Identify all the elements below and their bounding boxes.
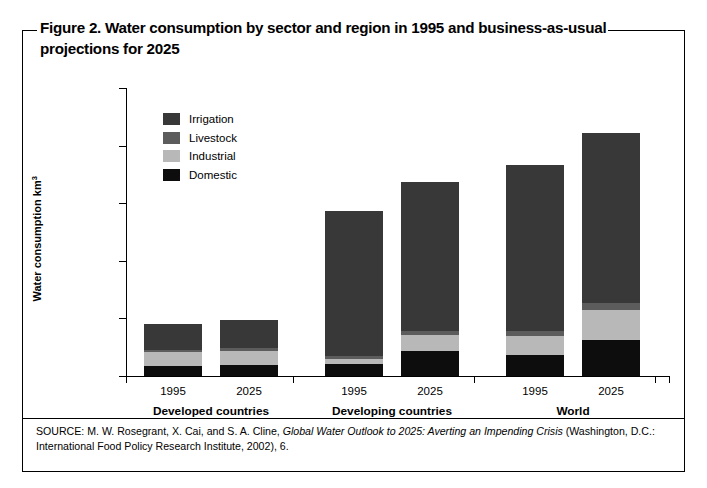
bar-segment-livestock	[582, 303, 640, 310]
x-tick-label: 2025	[390, 385, 470, 397]
legend-swatch-icon	[163, 113, 180, 125]
x-axis-line	[126, 376, 669, 377]
legend-item-domestic[interactable]: Domestic	[163, 166, 237, 185]
x-tick-label: 1995	[314, 385, 394, 397]
bar-segment-irrigation	[220, 320, 278, 348]
y-tick-mark	[119, 203, 126, 204]
bar-segment-domestic	[220, 365, 278, 376]
bar-world-1995[interactable]	[506, 165, 564, 376]
x-axis-end-tick	[126, 376, 127, 383]
legend-swatch-icon	[163, 132, 180, 144]
source-prefix: SOURCE: M. W. Rosegrant, X. Cai, and S. …	[36, 425, 283, 437]
bar-segment-livestock	[506, 331, 564, 336]
y-tick-500: 500	[0, 318, 126, 319]
x-tick-label: 2025	[209, 385, 289, 397]
legend-swatch-icon	[163, 150, 180, 162]
y-tick-mark	[119, 88, 126, 89]
legend-label: Industrial	[189, 150, 236, 162]
bar-segment-industrial	[401, 335, 459, 351]
x-axis-group-separator	[655, 376, 656, 383]
y-axis-title: Water consumption km3	[29, 159, 43, 319]
y-tick-2500: 2500	[0, 88, 126, 89]
bar-segment-industrial	[506, 336, 564, 355]
bar-segment-irrigation	[506, 165, 564, 331]
source-divider	[22, 418, 685, 419]
bar-segment-irrigation	[144, 324, 202, 350]
y-tick-mark	[119, 318, 126, 319]
figure-container: Figure 2. Water consumption by sector an…	[0, 0, 707, 488]
x-tick-label: 1995	[133, 385, 213, 397]
legend-label: Livestock	[189, 132, 237, 144]
legend-item-livestock[interactable]: Livestock	[163, 129, 237, 148]
chart-plot-area: Water consumption km3 050010001500200025…	[0, 0, 707, 488]
x-tick-label: 2025	[571, 385, 651, 397]
bar-segment-domestic	[582, 340, 640, 376]
y-tick-1000: 1000	[0, 261, 126, 262]
legend-item-irrigation[interactable]: Irrigation	[163, 110, 237, 129]
bar-segment-industrial	[325, 359, 383, 364]
bar-segment-domestic	[144, 366, 202, 376]
y-axis-title-text: Water consumption km3	[31, 176, 43, 301]
x-axis-group-label: Developed countries	[111, 404, 311, 418]
x-axis-group-separator	[293, 376, 294, 383]
legend-label: Domestic	[189, 169, 237, 181]
bar-segment-livestock	[325, 356, 383, 358]
y-tick-1500: 1500	[0, 203, 126, 204]
y-tick-mark	[119, 261, 126, 262]
bar-segment-irrigation	[401, 182, 459, 331]
x-axis-end-tick	[669, 376, 670, 383]
y-tick-mark	[119, 146, 126, 147]
x-axis-group-separator	[474, 376, 475, 383]
x-axis-group-label: World	[473, 404, 673, 418]
legend-label: Irrigation	[189, 113, 234, 125]
bar-segment-irrigation	[325, 211, 383, 356]
x-tick-label: 1995	[495, 385, 575, 397]
bar-segment-livestock	[220, 348, 278, 351]
bar-segment-industrial	[582, 310, 640, 341]
bar-segment-industrial	[220, 351, 278, 365]
bar-segment-livestock	[401, 331, 459, 335]
bar-segment-industrial	[144, 352, 202, 366]
bar-segment-domestic	[325, 364, 383, 376]
bar-segment-livestock	[144, 350, 202, 352]
y-tick-mark	[119, 376, 126, 377]
bar-segment-domestic	[401, 351, 459, 376]
source-note: SOURCE: M. W. Rosegrant, X. Cai, and S. …	[36, 424, 676, 454]
y-tick-0: 0	[0, 376, 126, 377]
source-title-italic: Global Water Outlook to 2025: Averting a…	[283, 425, 563, 437]
bar-developed-countries-2025[interactable]	[220, 320, 278, 376]
bar-developed-countries-1995[interactable]	[144, 324, 202, 376]
x-axis-group-label: Developing countries	[292, 404, 492, 418]
legend-item-industrial[interactable]: Industrial	[163, 147, 237, 166]
chart-legend: IrrigationLivestockIndustrialDomestic	[163, 110, 237, 184]
bar-segment-domestic	[506, 355, 564, 376]
bar-segment-irrigation	[582, 133, 640, 303]
bar-developing-countries-1995[interactable]	[325, 211, 383, 376]
bar-world-2025[interactable]	[582, 133, 640, 376]
bar-developing-countries-2025[interactable]	[401, 182, 459, 376]
y-tick-2000: 2000	[0, 146, 126, 147]
legend-swatch-icon	[163, 169, 180, 181]
